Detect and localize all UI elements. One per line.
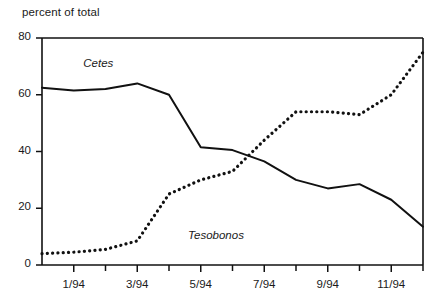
x-tick-label: 9/94 [298,278,358,290]
y-tick-label: 40 [0,144,31,156]
chart-series-layer [42,52,423,253]
x-tick-label: 1/94 [44,278,104,290]
x-tick-label: 11/94 [361,278,421,290]
chart-plot-area [0,0,440,308]
y-tick-marks [36,38,42,265]
y-tick-label: 80 [0,30,31,42]
series-label-tesobonos: Tesobonos [188,229,244,241]
y-tick-label: 0 [0,257,31,269]
series-line-cetes [42,83,423,226]
x-tick-label: 3/94 [107,278,167,290]
y-tick-label: 60 [0,87,31,99]
series-label-cetes: Cetes [83,57,113,69]
x-tick-label: 7/94 [234,278,294,290]
x-tick-label: 5/94 [171,278,231,290]
x-tick-marks [74,265,423,272]
y-tick-label: 20 [0,200,31,212]
series-line-tesobonos [42,52,423,253]
chart-figure: percent of total 020406080 1/943/945/947… [0,0,440,308]
